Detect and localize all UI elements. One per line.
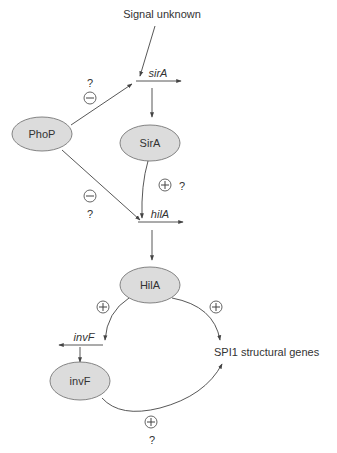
hila-protein-label: HilA	[140, 279, 161, 291]
hila-node: HilA	[120, 267, 180, 303]
phop-to-sira-arrow	[71, 84, 132, 125]
uncertain-mark: ?	[87, 208, 93, 220]
invf-protein-label: invF	[70, 375, 91, 387]
sira-node: SirA	[120, 125, 180, 161]
hila-gene-label: hilA	[151, 208, 169, 220]
minus-sign-icon	[84, 92, 96, 104]
sira-protein-label: SirA	[140, 137, 161, 149]
invf-node: invF	[50, 362, 110, 400]
regulatory-network-diagram: Signal unknown sirA ? PhoP SirA ? ? hilA	[0, 0, 337, 453]
phop-node: PhoP	[12, 117, 72, 151]
invf-gene-label: invF	[74, 331, 96, 343]
plus-sign-icon	[97, 301, 109, 313]
uncertain-mark: ?	[87, 77, 93, 89]
plus-sign-icon	[210, 301, 222, 313]
spi1-structural-genes-label: SPI1 structural genes	[214, 346, 320, 358]
signal-unknown-label: Signal unknown	[123, 8, 201, 20]
plus-sign-icon	[145, 416, 157, 428]
uncertain-mark: ?	[149, 434, 155, 446]
plus-sign-icon	[159, 179, 171, 191]
invf-to-spi1-arrow	[102, 364, 222, 411]
minus-sign-icon	[84, 190, 96, 202]
sira-to-hila-arrow	[142, 161, 148, 218]
phop-label: PhoP	[29, 128, 56, 140]
uncertain-mark: ?	[179, 180, 185, 192]
sira-gene-label: sirA	[149, 67, 168, 79]
phop-to-hila-arrow	[62, 150, 140, 220]
